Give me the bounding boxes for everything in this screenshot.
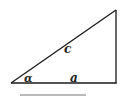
angle-label: α (24, 72, 33, 85)
hypotenuse-c-label: c (64, 42, 72, 56)
side-a-label: a (70, 71, 78, 85)
right-triangle-diagram: α a c (0, 0, 127, 101)
